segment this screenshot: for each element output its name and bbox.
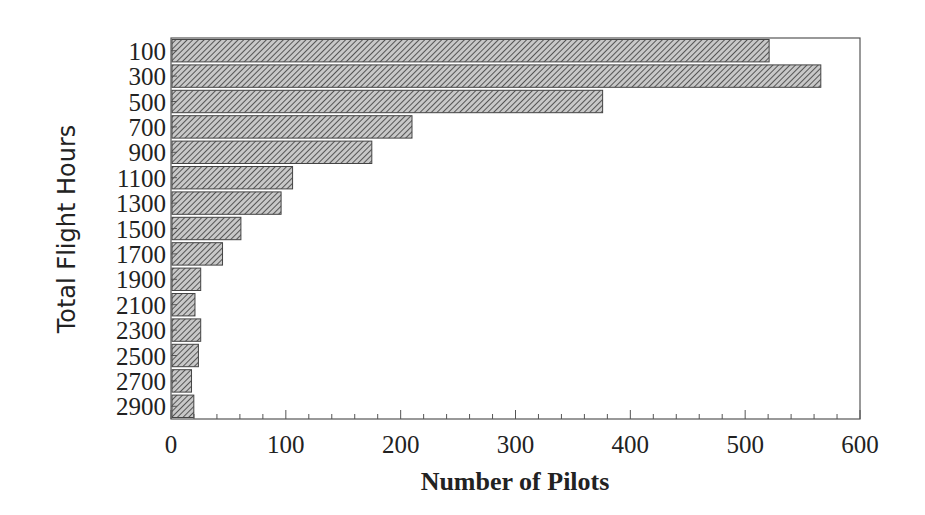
y-tick-label: 300 <box>129 63 167 90</box>
bar-100 <box>172 40 769 62</box>
bar-1500 <box>172 217 241 239</box>
x-axis-ticks: 0100200300400500600 <box>165 410 879 458</box>
x-tick-label: 500 <box>726 431 764 458</box>
x-tick-label: 0 <box>165 431 178 458</box>
bar-1700 <box>172 243 223 265</box>
y-tick-label: 900 <box>129 139 167 166</box>
y-tick-label: 100 <box>129 38 167 65</box>
y-tick-label: 2900 <box>116 393 166 420</box>
y-tick-label: 1100 <box>117 165 166 192</box>
y-tick-label: 500 <box>129 89 167 116</box>
y-tick-label: 1300 <box>116 190 166 217</box>
y-tick-label: 2500 <box>116 343 166 370</box>
y-tick-label: 2700 <box>116 368 166 395</box>
y-tick-label: 2100 <box>116 292 166 319</box>
x-tick-label: 300 <box>497 431 535 458</box>
y-tick-label: 2300 <box>116 317 166 344</box>
x-axis-label: Number of Pilots <box>421 467 610 496</box>
y-tick-label: 700 <box>129 114 167 141</box>
x-tick-label: 600 <box>841 431 879 458</box>
y-axis-label: Total Flight Hours <box>53 125 81 335</box>
bar-1100 <box>172 167 293 189</box>
bar-500 <box>172 90 603 112</box>
x-tick-label: 200 <box>382 431 420 458</box>
y-tick-label: 1900 <box>116 266 166 293</box>
bar-700 <box>172 116 412 138</box>
x-tick-label: 400 <box>612 431 650 458</box>
x-tick-label: 100 <box>267 431 305 458</box>
y-tick-label: 1700 <box>116 241 166 268</box>
bar-900 <box>172 141 372 163</box>
bars-group <box>172 40 821 418</box>
bar-chart: 1003005007009001100130015001700190021002… <box>0 0 925 515</box>
y-tick-label: 1500 <box>116 216 166 243</box>
y-axis-ticks: 1003005007009001100130015001700190021002… <box>116 38 177 421</box>
bar-1300 <box>172 192 281 214</box>
bar-300 <box>172 65 821 87</box>
